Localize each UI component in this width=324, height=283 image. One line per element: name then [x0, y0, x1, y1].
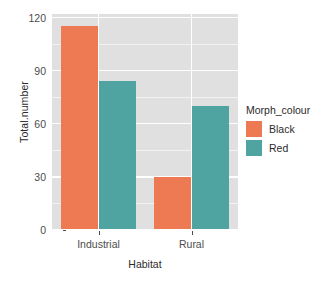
bar — [154, 177, 191, 229]
bar — [61, 26, 98, 229]
y-tick-label: 120 — [16, 13, 46, 23]
y-tick-mark — [63, 230, 66, 231]
y-tick-label: 0 — [16, 225, 46, 235]
bar — [192, 106, 229, 229]
plot-panel — [52, 14, 238, 230]
gridline-major — [52, 229, 238, 230]
y-tick-label: 30 — [16, 172, 46, 182]
legend-item-label: Black — [269, 123, 295, 135]
y-axis-ticks: 0306090120 — [16, 0, 46, 283]
x-axis-title: Habitat — [52, 258, 238, 270]
x-tick-mark — [192, 231, 193, 235]
gridline-major — [52, 17, 238, 18]
legend-item: Red — [246, 140, 310, 156]
y-tick-label: 60 — [16, 119, 46, 129]
x-tick-label: Industrial — [77, 238, 120, 250]
legend-entries: BlackRed — [246, 121, 310, 156]
legend-item-label: Red — [269, 142, 288, 154]
x-tick-label: Rural — [179, 238, 204, 250]
legend-title: Morph_colour — [246, 104, 310, 116]
bar — [99, 81, 136, 229]
y-tick-label: 90 — [16, 66, 46, 76]
legend-swatch-icon — [246, 121, 262, 137]
x-tick-mark — [99, 231, 100, 235]
legend: Morph_colour BlackRed — [246, 104, 310, 159]
bar-chart: Total.number 0306090120 IndustrialRural … — [0, 0, 324, 283]
legend-swatch-icon — [246, 140, 262, 156]
legend-item: Black — [246, 121, 310, 137]
